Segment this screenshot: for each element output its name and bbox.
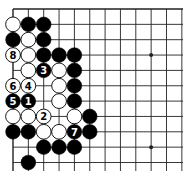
black-stone[interactable] <box>36 140 51 155</box>
white-stone[interactable]: 8 <box>6 48 21 63</box>
white-stone[interactable]: 6 <box>6 78 21 93</box>
black-stone[interactable] <box>67 48 82 63</box>
white-stone[interactable] <box>21 32 36 47</box>
black-stone-icon <box>67 48 82 63</box>
black-stone[interactable] <box>21 155 36 170</box>
black-stone[interactable]: 7 <box>67 124 82 139</box>
black-stone-icon <box>6 124 21 139</box>
black-stone[interactable] <box>36 48 51 63</box>
white-stone[interactable] <box>21 48 36 63</box>
white-stone[interactable] <box>52 124 67 139</box>
white-stone[interactable] <box>21 109 36 124</box>
white-stone-icon <box>52 124 67 139</box>
black-stone-icon <box>36 32 51 47</box>
move-number-label: 3 <box>40 65 47 76</box>
white-stone-icon <box>6 17 21 32</box>
white-stone[interactable] <box>21 63 36 78</box>
move-number-label: 4 <box>25 81 32 92</box>
white-stone-icon <box>21 63 36 78</box>
black-stone[interactable] <box>67 94 82 109</box>
white-stone-icon <box>52 63 67 78</box>
white-stone-icon <box>21 32 36 47</box>
white-stone[interactable]: 4 <box>21 78 36 93</box>
black-stone[interactable] <box>6 32 21 47</box>
move-number-label: 8 <box>10 50 17 61</box>
black-stone[interactable] <box>21 124 36 139</box>
white-stone[interactable] <box>6 17 21 32</box>
white-stone-icon <box>36 124 51 139</box>
black-stone[interactable] <box>6 124 21 139</box>
black-stone-icon <box>67 140 82 155</box>
black-stone-icon <box>82 109 97 124</box>
move-number-label: 7 <box>71 127 78 138</box>
black-stone-icon <box>21 155 36 170</box>
move-number-label: 1 <box>25 96 32 107</box>
black-stone-icon <box>36 48 51 63</box>
black-stone-icon <box>52 48 67 63</box>
black-stone[interactable] <box>21 17 36 32</box>
black-stone[interactable] <box>52 48 67 63</box>
black-stone[interactable] <box>67 140 82 155</box>
black-stone-icon <box>52 140 67 155</box>
white-stone[interactable] <box>36 124 51 139</box>
black-stone[interactable]: 1 <box>21 94 36 109</box>
white-stone-icon <box>6 109 21 124</box>
black-stone[interactable]: 3 <box>36 63 51 78</box>
black-stone[interactable] <box>36 32 51 47</box>
black-stone[interactable] <box>82 124 97 139</box>
white-stone-icon <box>67 109 82 124</box>
white-stone[interactable] <box>52 94 67 109</box>
move-number-label: 2 <box>40 111 47 122</box>
white-stone[interactable] <box>6 109 21 124</box>
black-stone[interactable] <box>67 63 82 78</box>
star-point-icon <box>149 145 153 149</box>
black-stone[interactable]: 5 <box>6 94 21 109</box>
white-stone-icon <box>52 78 67 93</box>
white-stone[interactable] <box>52 63 67 78</box>
white-stone[interactable] <box>52 78 67 93</box>
black-stone-icon <box>6 32 21 47</box>
move-number-label: 6 <box>10 81 17 92</box>
black-stone[interactable] <box>52 140 67 155</box>
black-stone[interactable] <box>36 17 51 32</box>
black-stone-icon <box>21 17 36 32</box>
black-stone-icon <box>36 140 51 155</box>
black-stone[interactable] <box>82 109 97 124</box>
move-number-label: 5 <box>10 96 17 107</box>
go-board[interactable]: 83645127 <box>0 0 186 176</box>
white-stone-icon <box>21 109 36 124</box>
black-stone-icon <box>67 94 82 109</box>
star-point-icon <box>149 53 153 57</box>
white-stone-icon <box>52 94 67 109</box>
black-stone-icon <box>67 78 82 93</box>
black-stone-icon <box>82 124 97 139</box>
black-stone-icon <box>21 124 36 139</box>
black-stone-icon <box>67 63 82 78</box>
black-stone-icon <box>36 17 51 32</box>
white-stone[interactable] <box>67 109 82 124</box>
white-stone[interactable]: 2 <box>36 109 51 124</box>
white-stone-icon <box>21 48 36 63</box>
black-stone[interactable] <box>67 78 82 93</box>
